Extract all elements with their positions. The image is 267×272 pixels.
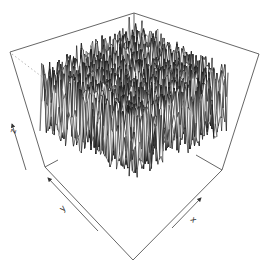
- box-edge-right-vertical: [222, 54, 259, 170]
- surface-mesh: [40, 17, 228, 177]
- box-edge-left-vertical: [10, 52, 45, 167]
- box-edge-front-left: [45, 167, 133, 260]
- box-edge-front-right: [133, 170, 222, 260]
- x-axis-label: x: [189, 214, 200, 225]
- surface-plot: z y x: [0, 0, 267, 272]
- y-axis-arrow: [48, 178, 98, 231]
- box-edge-floor-left: [45, 160, 58, 167]
- x-axis-arrow: [172, 198, 201, 228]
- box-edge-floor-right: [196, 155, 222, 170]
- y-axis-label: y: [57, 203, 68, 214]
